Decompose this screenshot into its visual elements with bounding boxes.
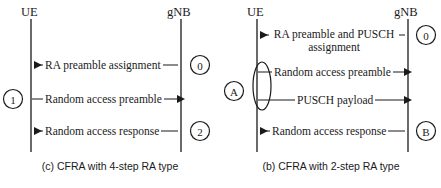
message-label-random-access-preamble: Random access preamble (43, 93, 164, 105)
badge-label-a: A (228, 86, 240, 98)
message-label-random-access-response: Random access response (43, 125, 161, 137)
actor-label-ue: UE (247, 6, 264, 18)
actor-label-gnb: gNB (394, 6, 418, 18)
message-label-line-1: RA preamble and PUSCH (274, 28, 394, 40)
message-group-ellipse (253, 62, 271, 110)
panel-caption-4-step: (c) CFRA with 4-step RA type (0, 160, 220, 172)
sequence-diagram-figure: UE gNB RA preamble assignment Random acc… (0, 0, 441, 188)
badge-label-1: 1 (7, 94, 19, 106)
actor-label-ue: UE (21, 6, 38, 18)
badge-label-0: 0 (194, 60, 206, 72)
panel-caption-2-step: (b) CFRA with 2-step RA type (221, 160, 441, 172)
actor-label-gnb: gNB (167, 6, 191, 18)
message-label-line-2: assignment (308, 41, 360, 53)
message-label-pusch-payload: PUSCH payload (295, 94, 375, 106)
message-label-ra-preamble-and-pusch-assignment: RA preamble and PUSCH assignment (269, 28, 399, 54)
message-label-ra-preamble-assignment: RA preamble assignment (43, 59, 163, 71)
badge-label-0: 0 (420, 30, 432, 42)
badge-label-2: 2 (194, 126, 206, 138)
badge-label-b: B (420, 126, 432, 138)
panel-cfra-2-step: UE gNB RA preamble and PUSCH assignment … (221, 0, 441, 188)
message-label-random-access-response: Random access response (270, 125, 388, 137)
message-label-random-access-preamble: Random access preamble (272, 66, 393, 78)
panel-cfra-4-step: UE gNB RA preamble assignment Random acc… (0, 0, 220, 188)
